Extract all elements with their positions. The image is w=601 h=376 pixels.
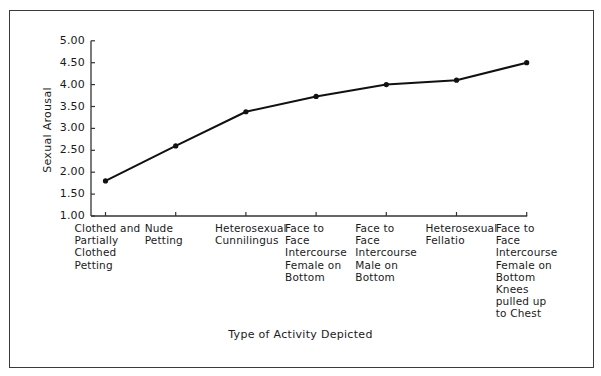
axes: [91, 41, 527, 216]
data-point: [103, 178, 108, 183]
y-axis-title: Sexual Arousal: [41, 87, 54, 173]
x-axis-title: Type of Activity Depicted: [0, 328, 601, 341]
data-point: [243, 109, 248, 114]
x-category-label: Heterosexual Cunnilingus: [215, 222, 287, 246]
data-series: [103, 60, 529, 183]
data-point: [524, 60, 529, 65]
data-point: [173, 143, 178, 148]
x-category-label: Face to Face Intercourse Male on Bottom: [355, 222, 417, 283]
x-category-label: Clothed and Partially Clothed Petting: [75, 222, 141, 271]
x-category-label: Face to Face Intercourse Female on Botto…: [285, 222, 347, 283]
y-tick-label: 5.00: [39, 35, 85, 47]
y-tick-label: 1.00: [39, 210, 85, 222]
series-line: [106, 63, 527, 181]
x-category-label: Heterosexual Fellatio: [426, 222, 498, 246]
x-category-label: Nude Petting: [145, 222, 183, 246]
x-category-label: Face to Face Intercourse Female on Botto…: [496, 222, 558, 320]
data-point: [384, 82, 389, 87]
data-point: [454, 78, 459, 83]
y-tick-label: 4.50: [39, 57, 85, 69]
data-point: [314, 94, 319, 99]
y-tick-label: 1.50: [39, 188, 85, 200]
